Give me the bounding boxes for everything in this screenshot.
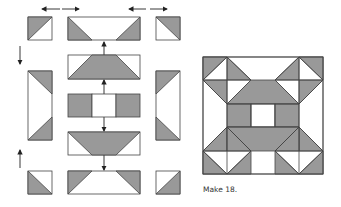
center-strip	[68, 94, 140, 117]
trapezoid-rect-upper	[68, 55, 140, 79]
side-rect-right	[156, 71, 180, 140]
geese-rect-top	[68, 17, 140, 40]
middle-gray-left	[227, 104, 251, 127]
middle-gray-right	[275, 104, 299, 127]
trapezoid-rect-lower	[68, 132, 140, 155]
middle-white-center	[251, 104, 275, 127]
side-rect-left	[28, 71, 52, 140]
caption-make-count: Make 18.	[203, 185, 237, 194]
quilt-diagram	[0, 0, 341, 207]
hst-bottom-left	[28, 171, 52, 194]
hst-top-left	[28, 17, 52, 40]
hst-bottom-right	[156, 171, 180, 194]
geese-rect-bottom	[68, 171, 140, 194]
hst-top-right	[156, 17, 180, 40]
finished-block	[203, 57, 323, 174]
